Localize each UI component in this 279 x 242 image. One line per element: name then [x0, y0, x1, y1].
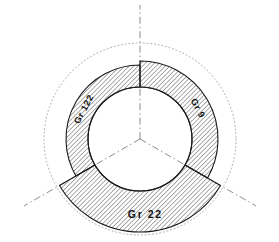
sector-gr-9: [140, 61, 218, 178]
drawing-canvas: Gr 122Gr 9Gr 22: [0, 0, 279, 242]
radial-centerlines: [24, 5, 256, 206]
sector-gr-9-body: [140, 61, 218, 178]
sector-gr-22: [59, 165, 220, 232]
cross-section-svg: Gr 122Gr 9Gr 22: [0, 0, 279, 242]
sector-gr-22-body: [59, 165, 220, 232]
sector-gr-22-label: Gr 22: [128, 208, 163, 220]
